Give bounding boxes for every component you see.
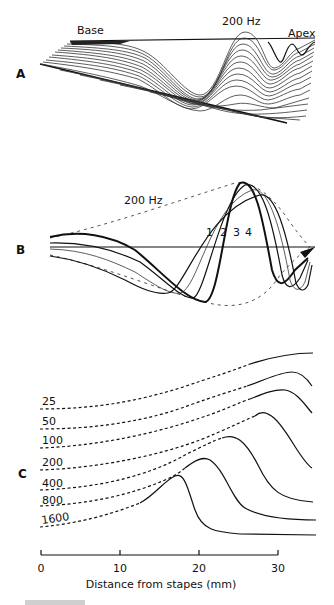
wave-trace-2	[50, 185, 308, 298]
frequency-label-b: 200 Hz	[124, 194, 163, 207]
figure-canvas: A Base 200 Hz Apex	[0, 0, 334, 605]
x-axis-title: Distance from stapes (mm)	[86, 578, 236, 591]
curve-25-dashed	[40, 364, 250, 409]
curve-label-1600: 1600	[41, 510, 71, 527]
x-tick-label-30: 30	[271, 562, 285, 575]
curve-label-100: 100	[42, 434, 63, 447]
wave-trace-3	[50, 190, 310, 294]
curve-100-solid	[250, 390, 312, 413]
base-label: Base	[77, 24, 104, 37]
panel-a-label: A	[16, 67, 26, 81]
curve-label-200: 200	[42, 456, 63, 469]
waterfall-traces	[41, 32, 315, 120]
frequency-label-a: 200 Hz	[222, 15, 261, 28]
curve-label-50: 50	[42, 415, 56, 428]
x-tick-label-20: 20	[192, 562, 206, 575]
wave-end	[300, 247, 315, 258]
curve-400-solid	[222, 436, 313, 502]
curve-label-25: 25	[42, 395, 56, 408]
curve-label-400: 400	[42, 477, 63, 490]
curve-100-dashed	[40, 399, 250, 448]
panel-b: B 200 Hz 1 2 3 4	[16, 183, 315, 306]
curve-50-dashed	[40, 386, 247, 429]
panel-b-label: B	[16, 243, 25, 257]
envelope-upper	[50, 183, 310, 247]
panel-c: C 25 50 100 200 400 800 1600	[18, 353, 316, 591]
x-axis: 0 10 20 30 Distance from stapes (mm)	[38, 550, 286, 591]
envelope-lower	[50, 247, 310, 306]
x-tick-label-10: 10	[113, 562, 127, 575]
wave-trace-4	[50, 195, 312, 294]
time-label-4: 4	[245, 226, 252, 239]
top-edge	[70, 38, 315, 41]
time-label-3: 3	[233, 226, 240, 239]
curve-25-solid	[250, 353, 313, 364]
panel-c-label: C	[18, 467, 27, 481]
curve-50-solid	[247, 372, 312, 386]
x-tick-label-0: 0	[38, 562, 45, 575]
panel-a: A Base 200 Hz Apex	[16, 15, 316, 123]
curve-400-dashed	[40, 438, 222, 490]
curve-800-solid	[185, 458, 316, 520]
curve-200-dashed	[40, 416, 255, 470]
curve-200-solid	[255, 413, 312, 468]
caption-fragment	[25, 600, 85, 605]
